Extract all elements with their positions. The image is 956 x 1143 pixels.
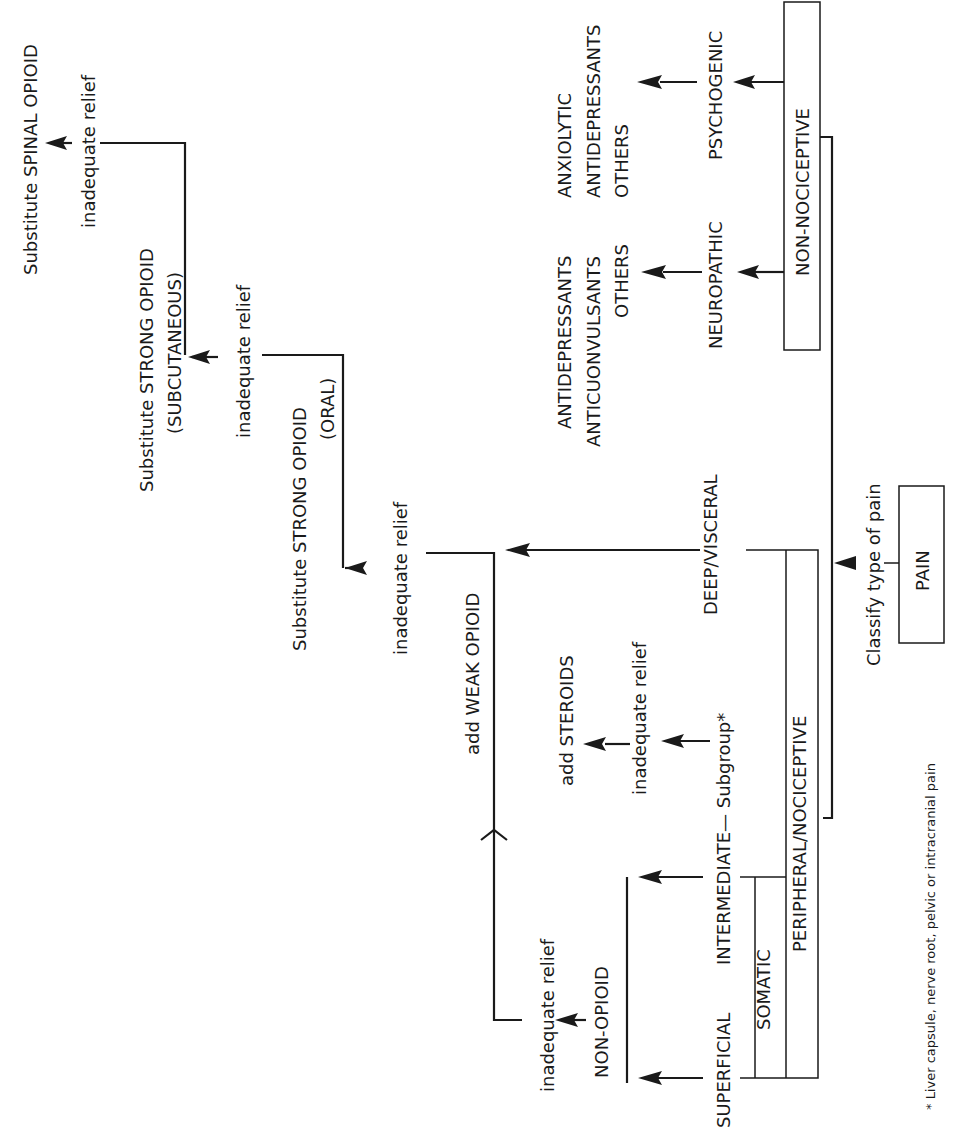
- strong-oral-label: Substitute STRONG OPIOID: [289, 407, 310, 651]
- inadequate-relief-label-1: inadequate relief: [537, 938, 558, 1092]
- steroids-arrow-icon: [583, 737, 606, 751]
- classify-label: Classify type of pain: [863, 483, 884, 666]
- inadequate-relief-label-2: inadequate relief: [629, 641, 650, 795]
- inadequate-relief-label-5: inadequate relief: [78, 74, 99, 228]
- subgroup-label: — Subgroup*: [713, 713, 734, 832]
- psychogenic-treatment-1: ANXIOLYTIC: [554, 93, 575, 198]
- strong-subcut-route-label: (SUBCUTANEOUS): [164, 272, 185, 434]
- non-opioid-label: NON-OPIOID: [591, 966, 612, 1078]
- add-steroids-label: add STEROIDS: [556, 655, 577, 786]
- neuropathic-treatment-2: ANTICUONVULSANTS: [583, 256, 604, 447]
- superficial-label: SUPERFICIAL: [713, 1013, 734, 1128]
- pain-label: PAIN: [912, 550, 933, 591]
- neuropathic-treatment-1: ANTIDEPRESSANTS: [554, 256, 575, 429]
- footnote: * Liver capsule, nerve root, pelvic or i…: [923, 763, 938, 1110]
- main-trunk-line: [820, 137, 832, 818]
- psychogenic-treatment-arrow-icon: [637, 75, 662, 89]
- strong-subcut-label: Substitute STRONG OPIOID: [136, 248, 157, 492]
- psychogenic-treatment-3: OTHERS: [611, 124, 632, 198]
- somatic-label: SOMATIC: [753, 949, 774, 1030]
- peripheral-nociceptive-label: PERIPHERAL/NOCICEPTIVE: [789, 716, 810, 952]
- deep-visceral-label: DEEP/VISCERAL: [700, 474, 721, 615]
- neuropathic-treatment-3: OTHERS: [611, 244, 632, 318]
- intermediate-label: INTERMEDIATE: [713, 832, 734, 965]
- neuropathic-treatment-arrow-icon: [641, 265, 666, 279]
- pain-treatment-flowchart: Substitute SPINAL OPIOID inadequate reli…: [0, 0, 956, 1143]
- strong-oral-route-label: (ORAL): [317, 378, 338, 440]
- psychogenic-label: PSYCHOGENIC: [705, 31, 726, 160]
- oral-arrow-icon: [345, 561, 367, 575]
- inadequate-relief-label-3: inadequate relief: [390, 501, 411, 655]
- classify-arrow-icon: [834, 556, 856, 570]
- psychogenic-treatment-2: ANTIDEPRESSANTS: [583, 25, 604, 198]
- spinal-opioid-label: Substitute SPINAL OPIOID: [20, 44, 41, 275]
- add-weak-opioid-label: add WEAK OPIOID: [462, 593, 483, 755]
- neuropathic-label: NEUROPATHIC: [705, 221, 726, 349]
- non-nociceptive-label: NON-NOCICEPTIVE: [792, 108, 813, 276]
- inadequate-relief-label-4: inadequate relief: [233, 284, 254, 438]
